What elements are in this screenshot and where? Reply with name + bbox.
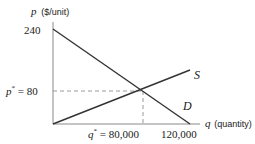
y-tick-240: 240	[24, 24, 41, 36]
y-axis-label: p ($/unit)	[30, 5, 69, 17]
x-axis-label: q (quantity)	[205, 117, 252, 129]
p-star-label: p* = 80	[5, 84, 38, 97]
q-star-label: q* = 80,000	[88, 127, 139, 140]
x-tick-120000: 120,000	[161, 128, 197, 140]
supply-curve	[53, 70, 190, 124]
demand-label: D	[182, 99, 192, 113]
demand-curve	[53, 29, 190, 124]
supply-label: S	[194, 68, 200, 82]
supply-demand-chart: p ($/unit) 240 p* = 80 q* = 80,000 120,0…	[0, 0, 255, 144]
